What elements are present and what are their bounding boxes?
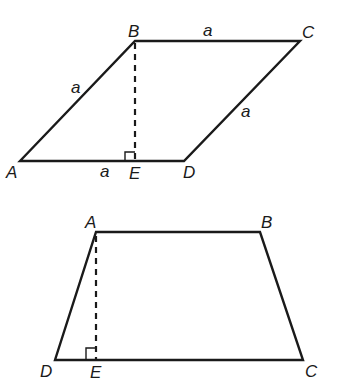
- side-label-ae: a: [100, 162, 109, 181]
- rhombus-figure: A B C D E a a a a: [5, 21, 315, 183]
- vertex-label-e: E: [90, 363, 102, 382]
- vertex-label-b: B: [128, 22, 139, 41]
- vertex-label-d: D: [183, 163, 195, 182]
- trapezoid-outline: [55, 232, 303, 360]
- geometry-diagram: A B C D E a a a a A B C D E: [0, 0, 337, 390]
- vertex-label-e: E: [129, 164, 141, 183]
- rhombus-outline: [20, 41, 300, 161]
- vertex-label-a: A: [5, 163, 17, 182]
- vertex-label-a: A: [84, 213, 96, 232]
- side-label-cd: a: [241, 102, 250, 121]
- side-label-bc: a: [203, 21, 212, 40]
- vertex-label-c: C: [302, 23, 315, 42]
- vertex-label-b: B: [261, 213, 272, 232]
- side-label-ab: a: [71, 78, 80, 97]
- vertex-label-d: D: [40, 362, 52, 381]
- trapezoid-figure: A B C D E: [40, 213, 318, 382]
- vertex-label-c: C: [305, 362, 318, 381]
- right-angle-marker-e: [125, 152, 135, 161]
- right-angle-marker-e: [86, 348, 96, 360]
